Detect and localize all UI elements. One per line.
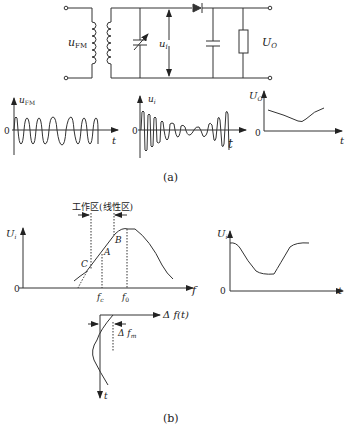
delta-fm-label: Δ fm [117, 328, 137, 339]
resonance-origin: 0 [14, 284, 20, 294]
uo-signal-curve [268, 108, 324, 122]
output-capacitor-icon [206, 8, 220, 78]
envelope-y-label: Ui [217, 228, 227, 240]
fm-y-label: uFM [19, 95, 35, 106]
uo-origin: 0 [255, 128, 261, 138]
delta-f-axis-label: Δ f(t) [162, 309, 189, 320]
output-voltage-label: UO [262, 36, 277, 50]
point-b-label: B [114, 235, 122, 245]
output-terminal-bottom [268, 76, 272, 80]
f0-label: f0 [121, 292, 129, 303]
point-a-label: A [103, 247, 111, 257]
ui-axis-label: Ui [6, 228, 16, 240]
fm-discriminator-diagram: uFM ui UO uFM 0 t ui 0 t UO 0 t (a) 工作区(… [0, 0, 347, 431]
deviation-curve [93, 315, 113, 385]
caption-b: (b) [163, 412, 179, 425]
f-axis-label: f [191, 284, 198, 297]
fm-x-label: t [112, 135, 117, 146]
envelope-curve [230, 243, 309, 274]
ui-signal-curve [141, 111, 229, 151]
ui-origin: 0 [132, 126, 138, 136]
waveform-fm [12, 98, 118, 155]
tank-voltage-label: ui [159, 38, 168, 51]
caption-a: (a) [163, 171, 178, 184]
resonance-curve [74, 229, 173, 281]
primary-coil-icon [92, 22, 96, 64]
input-terminal-top [64, 6, 68, 10]
diode-icon [193, 3, 202, 13]
ui-x-label: t [228, 137, 233, 151]
fc-label: fc [96, 292, 104, 303]
output-terminal-top [268, 6, 272, 10]
deviation-t-label: t [104, 391, 108, 401]
point-c-label: C [81, 259, 88, 269]
waveform-uo [264, 91, 342, 131]
input-voltage-label: uFM [68, 36, 87, 50]
envelope-chart [230, 231, 343, 291]
uo-x-label: t [340, 135, 345, 146]
envelope-origin: 0 [220, 286, 226, 296]
secondary-coil-icon [107, 22, 111, 64]
linear-region-label: 工作区(线性区) [72, 201, 133, 212]
load-resistor-icon [239, 8, 248, 78]
circuit [64, 3, 272, 80]
variable-capacitor-icon [133, 8, 148, 78]
fm-origin: 0 [4, 126, 10, 136]
input-terminal-bottom [64, 76, 68, 80]
ui-y-label: ui [148, 94, 156, 105]
uo-y-label: UO [249, 90, 262, 102]
fm-signal-curve [14, 117, 98, 145]
